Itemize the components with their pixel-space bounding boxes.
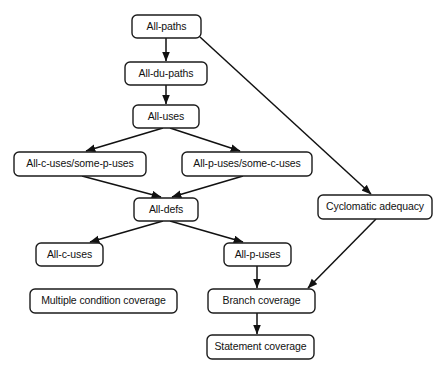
node-label-all-c-uses: All-c-uses (47, 248, 92, 260)
node-label-all-uses: All-uses (148, 110, 185, 122)
node-all-c-some-p[interactable]: All-c-uses/some-p-uses (14, 152, 146, 176)
node-label-all-p-some-c: All-p-uses/some-c-uses (193, 157, 301, 169)
edge-all-uses-to-all-p-some-c (170, 128, 240, 151)
edge-all-c-some-p-to-all-defs (82, 176, 161, 197)
edge-all-defs-to-all-c-uses (90, 221, 163, 242)
node-all-uses[interactable]: All-uses (133, 105, 199, 128)
coverage-criteria-diagram: All-pathsAll-du-pathsAll-usesAll-c-uses/… (0, 0, 446, 371)
node-all-p-uses[interactable]: All-p-uses (224, 243, 291, 266)
edge-all-uses-to-all-c-some-p (86, 128, 163, 151)
node-label-all-c-some-p: All-c-uses/some-p-uses (26, 157, 134, 169)
node-statement-cov[interactable]: Statement coverage (207, 335, 314, 359)
edge-cyclomatic-to-branch-coverage (308, 219, 376, 288)
node-label-branch-coverage: Branch coverage (223, 294, 301, 306)
node-label-cyclomatic: Cyclomatic adequacy (326, 200, 425, 212)
edge-all-defs-to-all-p-uses (170, 221, 243, 242)
node-branch-coverage[interactable]: Branch coverage (208, 289, 315, 313)
node-all-paths[interactable]: All-paths (132, 15, 201, 38)
node-cyclomatic[interactable]: Cyclomatic adequacy (318, 195, 432, 219)
diagram-canvas: All-pathsAll-du-pathsAll-usesAll-c-uses/… (0, 0, 446, 371)
node-all-du-paths[interactable]: All-du-paths (125, 62, 207, 85)
node-multiple-cond[interactable]: Multiple condition coverage (30, 289, 177, 313)
node-all-p-some-c[interactable]: All-p-uses/some-c-uses (182, 152, 312, 176)
edge-all-p-some-c-to-all-defs (172, 176, 243, 197)
nodes-layer: All-pathsAll-du-pathsAll-usesAll-c-uses/… (14, 15, 432, 359)
node-all-defs[interactable]: All-defs (134, 198, 198, 221)
node-label-all-du-paths: All-du-paths (139, 67, 194, 79)
node-label-all-defs: All-defs (149, 203, 183, 215)
node-label-statement-cov: Statement coverage (214, 340, 306, 352)
node-label-multiple-cond: Multiple condition coverage (41, 294, 166, 306)
node-label-all-paths: All-paths (147, 20, 187, 32)
node-label-all-p-uses: All-p-uses (235, 248, 281, 260)
node-all-c-uses[interactable]: All-c-uses (36, 243, 103, 266)
